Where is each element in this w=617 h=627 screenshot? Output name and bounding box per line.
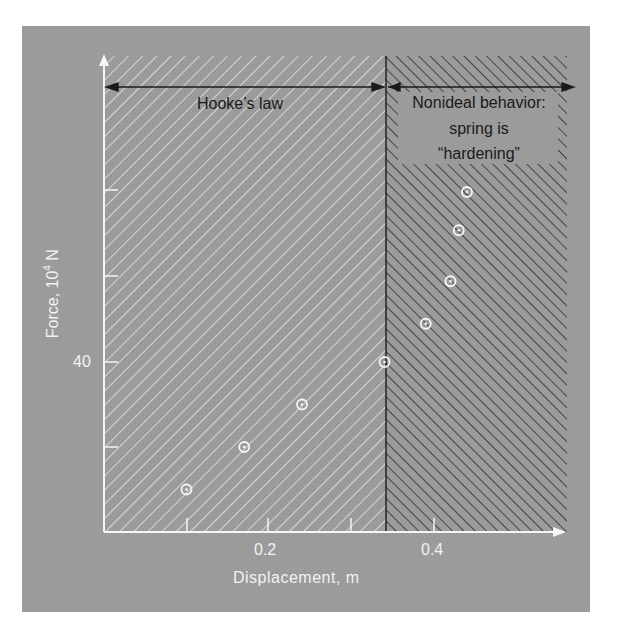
- x-tick-label-0.2: 0.2: [254, 541, 276, 559]
- data-point-center: [466, 191, 469, 194]
- y-axis-label: Force, 104 N: [42, 234, 61, 354]
- y-axis-label-text: Force, 10: [44, 271, 61, 339]
- data-point-center: [449, 280, 452, 283]
- nonideal-label-line1: Nonideal behavior:: [388, 94, 570, 112]
- x-axis-label-text: Displacement, m: [233, 569, 360, 586]
- y-axis-label-exponent: 4: [42, 265, 53, 271]
- y-axis-label-unit: N: [44, 249, 61, 265]
- nonideal-label-line3: “hardening”: [388, 145, 570, 163]
- data-point-center: [243, 446, 246, 449]
- data-point-center: [301, 403, 304, 406]
- data-point-center: [457, 229, 460, 232]
- x-tick-label-0.4: 0.4: [421, 541, 443, 559]
- nonideal-label-line2: spring is: [388, 120, 570, 138]
- data-point-center: [383, 361, 386, 364]
- data-point-center: [185, 488, 188, 491]
- hookes-law-region: [104, 56, 386, 532]
- data-point-center: [424, 322, 427, 325]
- y-tick-label-40: 40: [73, 353, 91, 371]
- hookes-law-label: Hooke’s law: [180, 95, 300, 113]
- x-axis-label: Displacement, m: [233, 569, 360, 587]
